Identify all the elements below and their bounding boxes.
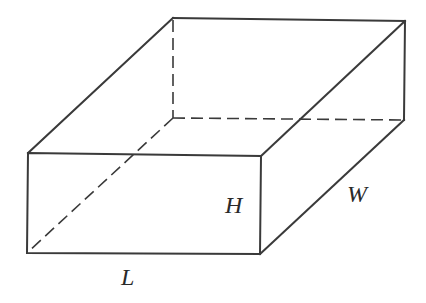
edge-back-top — [173, 18, 405, 21]
dimension-labels: L H W — [120, 181, 369, 290]
edge-top-right-depth — [261, 21, 405, 156]
length-label: L — [120, 264, 134, 290]
edge-back-right-vertical — [404, 21, 405, 120]
edge-bottom-right-depth — [260, 120, 404, 254]
visible-edges — [27, 18, 405, 254]
hidden-edge-back-bottom — [173, 118, 404, 120]
height-label: H — [224, 192, 244, 218]
rectangular-box-diagram: L H W — [0, 0, 426, 303]
hidden-edge-bottom-left-depth — [28, 118, 173, 252]
hidden-edges — [28, 20, 404, 252]
width-label: W — [347, 181, 369, 207]
edge-top-left-depth — [28, 18, 173, 153]
